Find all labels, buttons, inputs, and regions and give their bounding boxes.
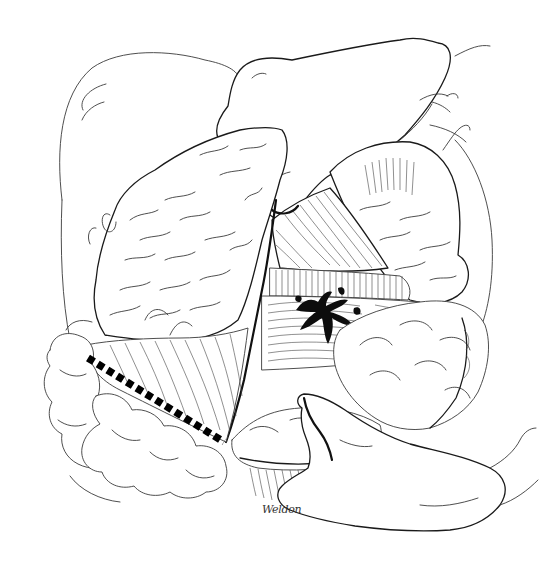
- artist-signature: Weldon: [262, 503, 301, 516]
- right-bowel-loops: [334, 301, 489, 430]
- illustration-svg: [0, 0, 550, 587]
- surgical-illustration: [0, 0, 550, 587]
